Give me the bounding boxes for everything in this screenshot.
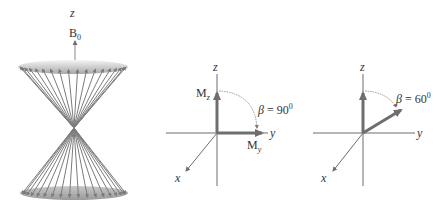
z-axis-label: z: [69, 6, 75, 20]
mz-label: Mz: [196, 86, 211, 102]
x-axis-label: x: [320, 171, 327, 185]
flip-90-panel: z y x Mz My β = 900: [166, 60, 293, 186]
tilted-magnetization-vector: [363, 110, 401, 133]
z-axis-label: z: [212, 60, 218, 74]
spin-vector: [30, 69, 74, 128]
x-axis: [333, 133, 363, 171]
y-axis-label: y: [269, 126, 276, 140]
upper-cone-spin-vectors: [20, 67, 126, 128]
beta-90-label: β = 900: [257, 102, 293, 117]
x-axis: [186, 133, 217, 171]
b0-label: B0: [69, 26, 81, 42]
rotation-arc-90: [219, 91, 257, 128]
spin-vector: [74, 128, 126, 193]
spin-vector: [36, 69, 75, 128]
precession-cones-panel: z B0: [18, 6, 128, 200]
spin-vector: [51, 70, 74, 129]
spin-vector: [27, 128, 74, 195]
flip-60-panel: z y x β = 600: [313, 60, 431, 186]
nmr-magnetization-figure: z B0 z y x Mz My β = 900 z y x: [0, 0, 444, 210]
z-axis-label: z: [359, 60, 365, 74]
my-label: My: [247, 138, 262, 154]
y-axis-label: y: [416, 126, 423, 140]
beta-60-label: β = 600: [395, 91, 431, 106]
rotation-arc-60: [365, 91, 396, 107]
upper-cone-disc: [18, 60, 128, 74]
x-axis-label: x: [174, 171, 181, 185]
